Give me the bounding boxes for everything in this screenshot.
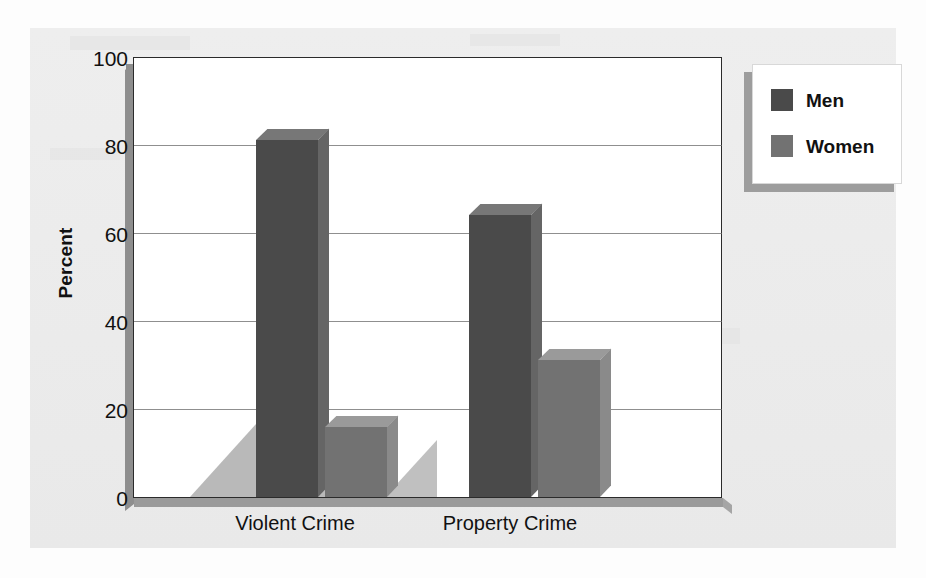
y-axis-title: Percent (55, 183, 77, 343)
legend-swatch-women (771, 135, 793, 157)
y-tick-label-0: 0 (10, 488, 128, 509)
bar-women-violent-crime[interactable] (325, 427, 387, 497)
y-tick-label-20: 20 (10, 400, 128, 421)
legend-swatch-men (771, 89, 793, 111)
legend-label-men: Men (806, 91, 844, 110)
x-axis-depth (134, 498, 723, 507)
bar-front-face (256, 140, 318, 497)
y-tick-label-80: 80 (10, 136, 128, 157)
legend: Men Women (752, 64, 902, 184)
bar-side-face (387, 416, 398, 497)
bar-top-face (469, 204, 542, 215)
gridline-80 (134, 145, 722, 146)
bar-group-shadow (190, 424, 256, 497)
scanned-page: 100 80 60 40 20 0 Percent Violent Crime … (0, 0, 926, 578)
legend-item-women[interactable]: Women (771, 135, 874, 157)
bar-front-face (469, 215, 531, 497)
x-tick-label-violent-crime: Violent Crime (195, 512, 395, 535)
bar-top-face (256, 129, 329, 140)
bar-men-violent-crime[interactable] (256, 140, 318, 497)
bar-top-face (538, 349, 611, 360)
bar-top-face (325, 416, 398, 427)
y-tick-label-100: 100 (10, 48, 128, 69)
gridline-40 (134, 321, 722, 322)
bar-front-face (325, 427, 387, 497)
legend-label-women: Women (806, 137, 874, 156)
bar-front-face (538, 360, 600, 497)
legend-item-men[interactable]: Men (771, 89, 844, 111)
x-tick-label-property-crime: Property Crime (410, 512, 610, 535)
gridline-20 (134, 409, 722, 410)
bar-men-property-crime[interactable] (469, 215, 531, 497)
bar-women-property-crime[interactable] (538, 360, 600, 497)
gridline-60 (134, 233, 722, 234)
bar-chart: 100 80 60 40 20 0 Percent Violent Crime … (0, 0, 926, 578)
x-axis-depth-bevel (723, 498, 732, 514)
bar-side-face (600, 349, 611, 497)
